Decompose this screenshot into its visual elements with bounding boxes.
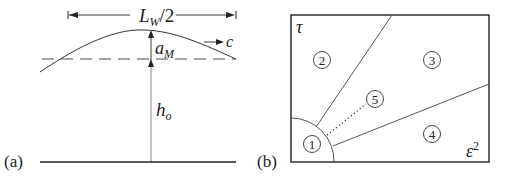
wavelength-dimension: LW/2 [68,5,236,29]
boundary-2-3 [316,15,392,127]
panel-a-tag: (a) [4,152,23,171]
wave-profile-curve [40,30,236,72]
boundary-3-4 [333,84,489,146]
region-2-label: 2 [314,52,331,69]
region-4-label: 4 [424,126,441,143]
depth-label: ho [156,99,172,123]
arrow-left-icon [69,12,78,18]
arrow-right-icon [226,12,235,18]
boundary-5-dotted [327,104,366,135]
amplitude-arrow: aM [148,30,175,61]
panel-b-tag: (b) [257,152,277,171]
region-5-label: 5 [367,91,384,108]
wave-speed-label: c [226,33,233,50]
wave-speed-arrow: c [204,33,233,50]
tau-axis-label: τ [296,17,303,37]
svg-text:2: 2 [319,53,326,68]
panel-b: τ ε2 1 2 3 4 5 (b) [257,15,489,171]
regime-box [291,15,489,162]
svg-text:3: 3 [429,53,436,68]
depth-arrow: ho [148,59,172,162]
panel-a: LW/2 c aM ho (a) [4,5,236,171]
region-3-label: 3 [424,52,441,69]
svg-text:5: 5 [372,92,379,107]
epsilon-squared-axis-label: ε2 [466,139,479,161]
svg-text:4: 4 [429,127,436,142]
region-1-label: 1 [304,136,321,153]
amplitude-label: aM [155,38,175,61]
svg-text:1: 1 [309,137,316,152]
wavelength-label: LW/2 [138,5,174,29]
figure: LW/2 c aM ho (a) [0,0,505,176]
